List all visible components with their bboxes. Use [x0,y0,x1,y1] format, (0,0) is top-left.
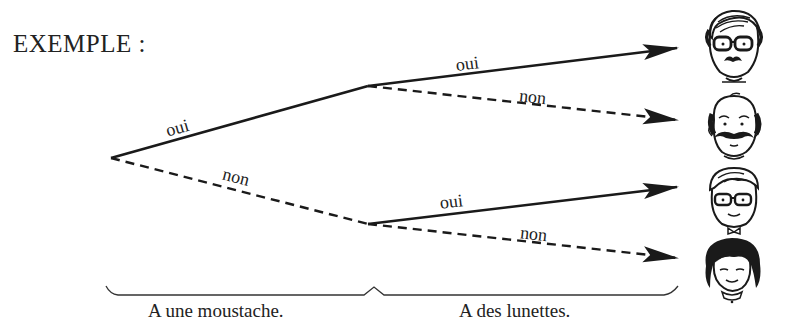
edge-label-non-2: non [518,85,547,108]
edge-label-non-3: non [519,222,548,245]
brace [106,286,678,295]
face-man-mustache-glasses-icon [707,11,762,82]
edge-label-oui-2: oui [455,52,480,75]
edge-label-non-1: non [221,164,252,190]
face-bald-man-mustache-icon [709,93,760,159]
decision-tree: oui non oui non oui non [0,0,787,328]
face-boy-glasses-icon [710,168,758,234]
edge-moustache-oui-lunettes-oui [368,48,677,86]
brace-label-lunettes: A des lunettes. [459,300,570,322]
edge-root-oui [111,86,368,158]
face-girl-icon [706,238,761,303]
edge-moustache-non-lunettes-oui [368,187,677,224]
brace-label-moustache: A une moustache. [148,300,284,322]
edge-label-oui-3: oui [439,190,464,213]
